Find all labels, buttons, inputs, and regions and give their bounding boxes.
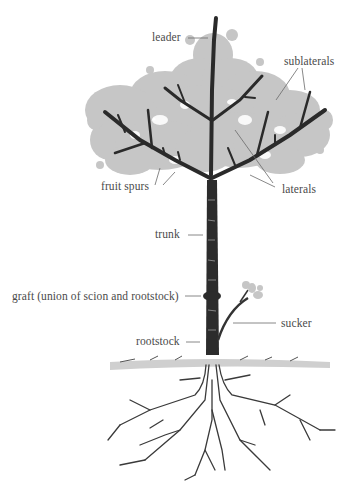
label-laterals: laterals <box>282 184 316 196</box>
label-sucker: sucker <box>281 318 312 330</box>
tree-illustration <box>0 0 352 487</box>
label-leader: leader <box>152 32 181 44</box>
tree-diagram: leader sublaterals fruit spurs laterals … <box>0 0 352 487</box>
label-rootstock: rootstock <box>136 336 180 348</box>
label-graft: graft (union of scion and rootstock) <box>12 291 179 303</box>
root-system <box>108 365 335 480</box>
label-sublaterals: sublaterals <box>284 56 334 68</box>
graft-union <box>203 291 221 301</box>
sucker-shoot <box>218 281 263 340</box>
label-trunk: trunk <box>155 229 180 241</box>
foliage-canopy <box>85 29 333 175</box>
label-fruit-spurs: fruit spurs <box>101 181 149 193</box>
trunk-shape <box>206 180 219 355</box>
